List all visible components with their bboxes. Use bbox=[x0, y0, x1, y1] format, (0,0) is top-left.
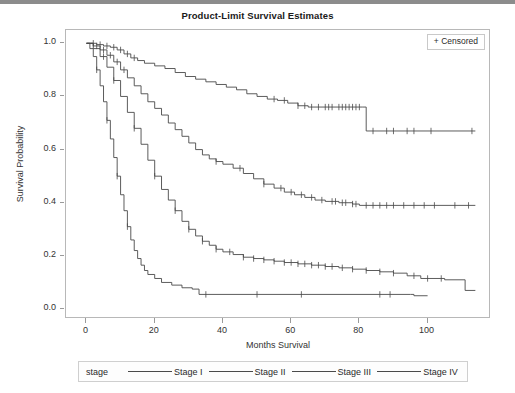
legend-entry-stage-ii[interactable]: Stage II bbox=[203, 367, 286, 377]
censored-legend-box: + Censored bbox=[427, 34, 485, 50]
legend-entry-label: Stage III bbox=[338, 367, 372, 377]
x-tick-mark bbox=[290, 318, 291, 323]
y-tick-label: 0.0 bbox=[10, 302, 56, 312]
legend-line-swatch bbox=[128, 371, 172, 372]
x-tick-mark bbox=[85, 318, 86, 323]
survival-plot-figure: Product-Limit Survival Estimates Surviva… bbox=[0, 4, 515, 393]
censor-marks-stage-i bbox=[93, 40, 472, 134]
survival-curve-stage-iv bbox=[86, 43, 427, 295]
series-legend: stage Stage IStage IIStage IIIStage IV bbox=[78, 361, 468, 382]
censored-legend-label: + Censored bbox=[434, 36, 478, 46]
x-tick-mark bbox=[154, 318, 155, 323]
x-tick-label: 80 bbox=[338, 325, 378, 335]
y-tick-label: 0.4 bbox=[10, 196, 56, 206]
x-tick-label: 40 bbox=[202, 325, 242, 335]
censor-marks-stage-iii bbox=[104, 53, 442, 281]
plot-area: + Censored bbox=[65, 29, 490, 318]
x-tick-label: 60 bbox=[270, 325, 310, 335]
survival-curve-stage-ii bbox=[86, 43, 475, 205]
legend-entry-label: Stage I bbox=[174, 367, 203, 377]
y-tick-label: 0.2 bbox=[10, 249, 56, 259]
y-tick-label: 1.0 bbox=[10, 36, 56, 46]
legend-line-swatch bbox=[377, 371, 421, 372]
y-tick-mark bbox=[60, 202, 64, 203]
x-tick-mark bbox=[427, 318, 428, 323]
x-axis-title: Months Survival bbox=[65, 340, 491, 350]
x-tick-label: 0 bbox=[65, 325, 105, 335]
legend-line-swatch bbox=[292, 371, 336, 372]
legend-title: stage bbox=[86, 367, 108, 377]
legend-line-swatch bbox=[209, 371, 253, 372]
censor-marks-stage-ii bbox=[97, 43, 469, 209]
legend-entry-stage-i[interactable]: Stage I bbox=[122, 367, 203, 377]
y-tick-label: 0.8 bbox=[10, 89, 56, 99]
x-tick-label: 100 bbox=[407, 325, 447, 335]
survival-curves-svg bbox=[66, 30, 489, 317]
x-tick-label: 20 bbox=[134, 325, 174, 335]
page-title: Product-Limit Survival Estimates bbox=[0, 10, 515, 21]
y-tick-mark bbox=[60, 95, 64, 96]
y-tick-mark bbox=[60, 42, 64, 43]
legend-entry-stage-iii[interactable]: Stage III bbox=[286, 367, 372, 377]
legend-entry-label: Stage II bbox=[255, 367, 286, 377]
y-tick-label: 0.6 bbox=[10, 143, 56, 153]
y-axis-ticks: 0.00.20.40.60.81.0 bbox=[8, 29, 64, 318]
x-tick-mark bbox=[222, 318, 223, 323]
x-tick-mark bbox=[358, 318, 359, 323]
y-tick-mark bbox=[60, 149, 64, 150]
legend-entry-label: Stage IV bbox=[423, 367, 458, 377]
survival-curve-stage-i bbox=[86, 43, 475, 131]
y-tick-mark bbox=[60, 255, 64, 256]
survival-curve-stage-iii bbox=[86, 43, 475, 290]
y-tick-mark bbox=[60, 308, 64, 309]
legend-entry-stage-iv[interactable]: Stage IV bbox=[371, 367, 458, 377]
